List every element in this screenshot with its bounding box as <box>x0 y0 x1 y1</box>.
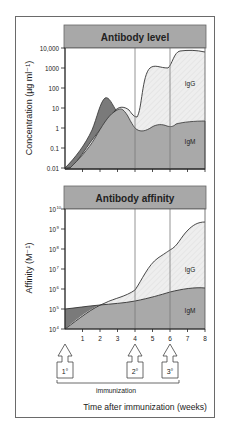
ytick-exponent: 4 <box>57 325 60 330</box>
dose-label: 2° <box>132 368 139 375</box>
antibody-level-chart: Antibody level <box>24 25 206 172</box>
dose-3-marker: 3° <box>162 344 178 378</box>
x-axis-title: Time after immunization (weeks) <box>83 402 207 412</box>
y-axis-title: Concentration (µg ml⁻¹) <box>24 61 34 156</box>
antibody-figure: Antibody level <box>0 0 227 431</box>
ytick-label: 10 <box>49 206 57 213</box>
ytick-label: 10 <box>49 306 57 313</box>
ytick-exponent: 9 <box>57 225 60 230</box>
y-axis-title: Affinity (M⁻¹) <box>24 243 34 294</box>
chart-title: Antibody level <box>101 32 170 43</box>
ytick-label: 1000 <box>45 65 60 72</box>
immunization-markers: 1° 2° 3° immunization Time after immuniz… <box>57 344 207 412</box>
dose-1-marker: 1° <box>57 344 73 378</box>
immunization-bracket <box>57 380 179 383</box>
dose-2-marker: 2° <box>127 344 143 378</box>
xtick-label: 6 <box>168 335 172 342</box>
ytick-label: 100 <box>48 85 59 92</box>
chart-title: Antibody affinity <box>96 193 175 204</box>
ytick-exponent: 5 <box>57 305 60 310</box>
ytick-label: 0.01 <box>47 165 60 172</box>
igg-label: IgG <box>185 266 195 274</box>
ytick-label: 10,000 <box>40 45 60 52</box>
xtick-label: 2 <box>98 335 102 342</box>
ytick-label: 1 <box>55 125 59 132</box>
immunization-label: immunization <box>96 387 136 394</box>
ytick-exponent: 10 <box>57 205 62 210</box>
xtick-label: 3 <box>116 335 120 342</box>
xtick-label: 1 <box>81 335 85 342</box>
xtick-label: 7 <box>186 335 190 342</box>
ytick-label: 10 <box>52 105 60 112</box>
igg-label: IgG <box>185 80 195 88</box>
xtick-label: 4 <box>133 335 137 342</box>
igm-label: IgM <box>185 138 196 146</box>
xtick-label: 8 <box>203 335 207 342</box>
igm-label: IgM <box>185 307 196 315</box>
dose-label: 1° <box>62 368 69 375</box>
ytick-label: 0.1 <box>50 145 59 152</box>
dose-label: 3° <box>167 368 174 375</box>
ytick-label: 10 <box>49 326 57 333</box>
ytick-label: 10 <box>49 246 57 253</box>
ytick-label: 10 <box>49 266 57 273</box>
ytick-label: 10 <box>49 226 57 233</box>
ytick-label: 10 <box>49 286 57 293</box>
xtick-label: 5 <box>151 335 155 342</box>
antibody-affinity-chart: Antibody affinity 1 <box>24 186 207 342</box>
ytick-exponent: 7 <box>57 265 60 270</box>
ytick-exponent: 6 <box>57 285 60 290</box>
ytick-exponent: 8 <box>57 245 60 250</box>
